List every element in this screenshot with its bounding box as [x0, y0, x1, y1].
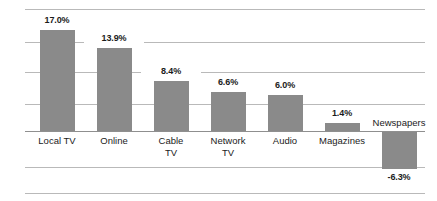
bar-audio — [268, 95, 303, 131]
value-label-magazines: 1.4% — [312, 108, 372, 119]
category-label-magazines: Magazines — [307, 135, 377, 147]
bar-chart: 17.0% 13.9% 8.4% 6.6% 6.0% 1.4% -6.3% Lo… — [0, 0, 437, 201]
bar-cable-tv — [154, 81, 189, 131]
bar-newspapers — [382, 132, 417, 169]
category-label-newspapers: Newspapers — [364, 117, 434, 129]
bar-online — [97, 48, 132, 131]
bar-network-tv — [211, 92, 246, 131]
value-label-online: 13.9% — [84, 33, 144, 44]
bar-magazines — [325, 123, 360, 131]
value-label-cable-tv: 8.4% — [141, 66, 201, 77]
bar-local-tv — [40, 30, 75, 131]
plot-area — [0, 0, 437, 201]
value-label-audio: 6.0% — [255, 80, 315, 91]
value-label-local-tv: 17.0% — [27, 15, 87, 26]
value-label-newspapers: -6.3% — [369, 172, 429, 183]
value-label-network-tv: 6.6% — [198, 77, 258, 88]
